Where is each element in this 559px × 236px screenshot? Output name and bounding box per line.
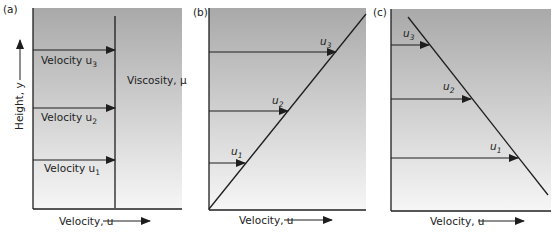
panel-c-fluid-region — [391, 9, 551, 210]
panel-c-x-axis-label: Velocity, u — [430, 215, 485, 227]
panel-a: (a) Velocity u3 Velocity u2 Velocity u1 … — [3, 3, 187, 227]
panel-b: (b) u3 u2 u1 Velocity, u — [193, 6, 366, 226]
panel-a-tag: (a) — [3, 3, 18, 15]
panel-c: (c) u3 u2 u1 Velocity, u — [373, 6, 551, 227]
panel-b-tag: (b) — [193, 6, 208, 18]
panel-a-viscosity-label: Viscosity, μ — [127, 74, 187, 86]
panel-c-tag: (c) — [373, 6, 387, 18]
panel-a-y-axis-label: Height, y — [13, 82, 25, 130]
velocity-profile-diagram: (a) Velocity u3 Velocity u2 Velocity u1 … — [0, 0, 559, 236]
